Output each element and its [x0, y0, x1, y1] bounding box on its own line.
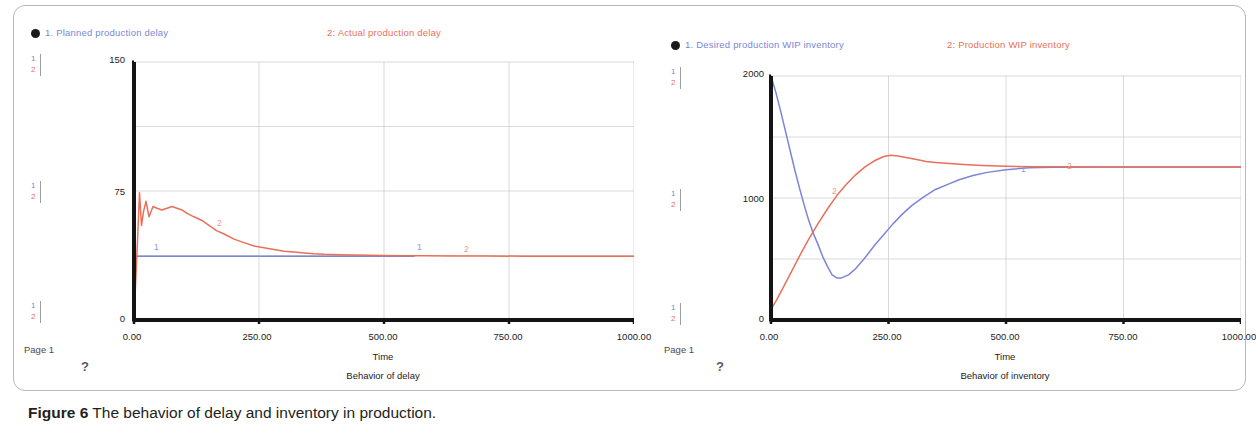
- x-tick-label-0: 0.00: [123, 331, 142, 342]
- curve-tag-1-late: 1: [417, 242, 422, 252]
- y-tick-label-150: 150: [92, 54, 125, 65]
- x-tick-label-250: 250.00: [242, 331, 271, 342]
- y-tick-label-2000: 2000: [724, 68, 764, 79]
- scale-marker-series1: 1: [31, 181, 35, 190]
- x-axis-title: Time: [373, 351, 394, 362]
- scale-marker-series2: 2: [671, 314, 675, 323]
- curve-tag-2-rise: 2: [832, 186, 837, 196]
- scale-marker-bar: [680, 67, 681, 89]
- x-tick-label-500: 500.00: [990, 331, 1019, 342]
- scale-marker-series2: 2: [31, 65, 35, 74]
- y-tick-label-0: 0: [92, 313, 125, 324]
- plot-title-inventory: Behavior of inventory: [960, 370, 1049, 381]
- scale-marker-bar: [680, 189, 681, 211]
- x-tick-label-1000: 1000.00: [1222, 331, 1256, 342]
- y-tick-label-75: 75: [92, 186, 125, 197]
- figure-container: 1. Planned production delay 2: Actual pr…: [0, 0, 1256, 439]
- scale-marker-bar: [40, 54, 41, 76]
- legend-inventory: 1. Desired production WIP inventory 2: P…: [654, 38, 1254, 56]
- figure-caption-text: The behavior of delay and inventory in p…: [88, 404, 436, 421]
- chart-delay: 1. Planned production delay 2: Actual pr…: [14, 0, 654, 386]
- plot-area-inventory: [769, 72, 1241, 324]
- scale-marker-bar: [40, 301, 41, 323]
- scale-marker-series1: 1: [671, 189, 675, 198]
- scale-marker-middle: 12: [31, 180, 47, 206]
- x-tick-label-500: 500.00: [368, 331, 397, 342]
- curve-tag-1-early: 1: [154, 242, 159, 252]
- scale-marker-series1: 1: [671, 67, 675, 76]
- plot-title-delay: Behavior of delay: [346, 370, 419, 381]
- figure-caption: Figure 6 The behavior of delay and inven…: [28, 404, 436, 422]
- legend-entry-1: 1. Desired production WIP inventory: [685, 39, 844, 50]
- legend-entry-2: 2: Production WIP inventory: [947, 39, 1070, 50]
- scale-marker-series1: 1: [671, 303, 675, 312]
- scale-marker-series2: 2: [31, 192, 35, 201]
- x-tick-label-250: 250.00: [872, 331, 901, 342]
- scale-marker-bottom: 12: [31, 300, 47, 326]
- x-tick-label-750: 750.00: [1108, 331, 1137, 342]
- scale-marker-series1: 1: [31, 301, 35, 310]
- scale-marker-bar: [40, 181, 41, 203]
- scale-marker-top: 12: [31, 53, 47, 79]
- legend-bullet-icon: [31, 29, 40, 38]
- legend-entry-2: 2: Actual production delay: [327, 27, 441, 38]
- scale-marker-bottom: 12: [671, 302, 687, 328]
- scale-marker-series2: 2: [31, 312, 35, 321]
- scale-marker-series1: 1: [31, 54, 35, 63]
- chart-inventory: 1. Desired production WIP inventory 2: P…: [654, 0, 1254, 386]
- help-question-icon[interactable]: ?: [81, 359, 89, 374]
- scale-marker-middle: 12: [671, 188, 687, 214]
- curve-tag-1-settled: 1: [1021, 164, 1026, 174]
- figure-caption-label: Figure 6: [28, 404, 88, 421]
- curve-tag-2-settled: 2: [1067, 161, 1072, 171]
- help-question-icon[interactable]: ?: [716, 359, 724, 374]
- y-tick-label-1000: 1000: [724, 193, 764, 204]
- curve-tag-2-early: 2: [217, 218, 222, 228]
- plot-area-delay: [132, 58, 634, 324]
- x-tick-label-750: 750.00: [493, 331, 522, 342]
- plot-svg-delay: [132, 58, 634, 324]
- y-tick-label-0: 0: [724, 313, 764, 324]
- scale-marker-bar: [680, 303, 681, 325]
- legend-delay: 1. Planned production delay 2: Actual pr…: [14, 26, 654, 44]
- plot-svg-inventory: [769, 72, 1241, 324]
- curve-tag-2-late: 2: [464, 244, 469, 254]
- page-label: Page 1: [664, 344, 694, 355]
- legend-entry-1: 1. Planned production delay: [45, 27, 168, 38]
- x-tick-label-0: 0.00: [760, 331, 779, 342]
- legend-bullet-icon: [671, 41, 680, 50]
- scale-marker-series2: 2: [671, 200, 675, 209]
- scale-marker-series2: 2: [671, 78, 675, 87]
- x-tick-label-1000: 1000.00: [617, 331, 651, 342]
- scale-marker-top: 12: [671, 66, 687, 92]
- x-axis-title: Time: [995, 351, 1016, 362]
- page-label: Page 1: [24, 344, 54, 355]
